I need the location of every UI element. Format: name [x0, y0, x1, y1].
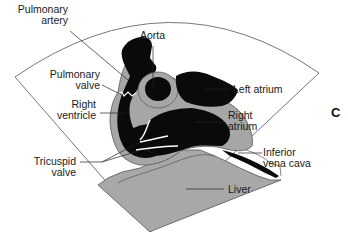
- label-line: atrium: [228, 121, 257, 132]
- label-tricuspid-valve: Tricuspid valve: [22, 156, 76, 178]
- label-line: ventricle: [40, 110, 96, 121]
- label-inferior-vena-cava: Inferior vena cava: [263, 147, 311, 169]
- label-line: valve: [22, 167, 76, 178]
- label-liver: Liver: [228, 184, 251, 195]
- label-pulmonary-valve: Pulmonary valve: [46, 69, 100, 91]
- aorta-lumen: [145, 77, 171, 101]
- label-aorta: Aorta: [140, 30, 165, 41]
- label-line: vena cava: [263, 158, 311, 169]
- label-pulmonary-artery: Pulmonary artery: [14, 4, 68, 26]
- panel-letter: C: [331, 105, 340, 120]
- label-right-ventricle: Right ventricle: [40, 99, 96, 121]
- label-right-atrium: Right atrium: [228, 110, 257, 132]
- label-line: valve: [46, 80, 100, 91]
- label-left-atrium: Left atrium: [233, 84, 283, 95]
- label-line: artery: [14, 15, 68, 26]
